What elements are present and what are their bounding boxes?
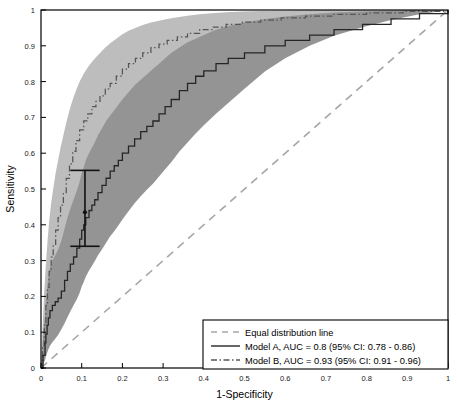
legend: Equal distribution lineModel A, AUC = 0.… [203, 320, 448, 369]
y-axis-tick-label: 0.9 [25, 42, 35, 51]
x-axis-tick-label: 1 [446, 374, 450, 383]
y-axis-tick-label: 0.6 [25, 149, 35, 158]
x-axis-tick-label: 0.7 [321, 374, 331, 383]
x-axis-tick-label: 0.5 [239, 374, 249, 383]
x-axis-tick-label: 0.6 [280, 374, 290, 383]
x-axis-tick-label: 0.3 [158, 374, 168, 383]
x-axis-tick-label: 0.1 [76, 374, 86, 383]
legend-label-2: Model A, AUC = 0.8 (95% CI: 0.78 - 0.86) [245, 342, 415, 352]
y-axis-tick-label: 1 [31, 6, 35, 15]
x-axis-tick-label: 0.9 [402, 374, 412, 383]
roc-chart: 00.10.20.30.40.50.60.70.80.9100.10.20.30… [0, 0, 457, 416]
x-axis-tick-label: 0.2 [117, 374, 127, 383]
legend-label-3: Model B, AUC = 0.93 (95% CI: 0.91 - 0.96… [245, 356, 421, 366]
roc-chart-svg: 00.10.20.30.40.50.60.70.80.9100.10.20.30… [0, 0, 457, 416]
x-axis-tick-label: 0.8 [361, 374, 371, 383]
y-axis-tick-label: 0.8 [25, 78, 35, 87]
y-axis-tick-label: 0.3 [25, 257, 35, 266]
y-axis-tick-label: 0.1 [25, 328, 35, 337]
x-axis-title: 1-Specificity [216, 388, 273, 400]
y-axis-title: Sensitivity [4, 165, 16, 213]
x-axis-tick-label: 0 [39, 374, 43, 383]
y-axis-tick-label: 0.5 [25, 185, 35, 194]
x-axis-tick-label: 0.4 [199, 374, 209, 383]
y-axis-tick-label: 0 [31, 364, 35, 373]
legend-label-1: Equal distribution line [245, 328, 333, 338]
y-axis-tick-label: 0.7 [25, 113, 35, 122]
error-bar-point [83, 210, 87, 214]
y-axis-tick-label: 0.4 [25, 221, 35, 230]
y-axis-tick-label: 0.2 [25, 292, 35, 301]
